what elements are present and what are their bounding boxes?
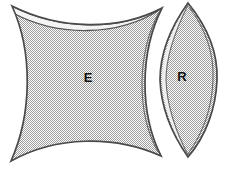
- figure-canvas: E R: [0, 0, 226, 174]
- region-e-label: E: [84, 70, 93, 85]
- geometry-figure: E R: [0, 0, 226, 174]
- region-r-label: R: [177, 69, 187, 84]
- region-e-group: E: [11, 6, 162, 161]
- region-r-fill: [160, 3, 217, 157]
- region-r-group: R: [160, 3, 217, 157]
